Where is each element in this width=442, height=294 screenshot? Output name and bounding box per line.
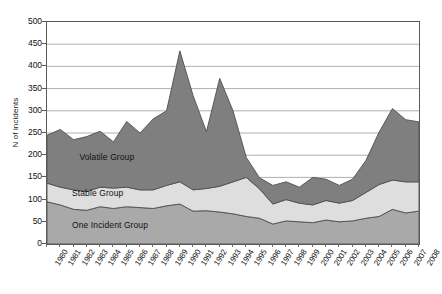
y-tickmark-0 [42, 243, 46, 244]
y-tickmark-100 [42, 199, 46, 200]
x-tick-2004: 2004 [372, 248, 389, 267]
x-tick-1989: 1989 [173, 248, 190, 267]
series-label-0: Volatile Group [79, 152, 134, 162]
x-tick-2005: 2005 [385, 248, 402, 267]
x-tick-2001: 2001 [332, 248, 349, 267]
x-tick-1983: 1983 [93, 248, 110, 267]
x-tick-1997: 1997 [279, 248, 296, 267]
x-tick-2003: 2003 [359, 248, 376, 267]
y-tickmark-200 [42, 154, 46, 155]
x-tick-1994: 1994 [239, 248, 256, 267]
x-tick-1998: 1998 [292, 248, 309, 267]
y-tickmark-300 [42, 110, 46, 111]
y-tick-0: 0 [16, 239, 42, 247]
y-tick-100: 100 [16, 195, 42, 203]
y-tickmark-250 [42, 132, 46, 133]
y-tick-450: 450 [16, 39, 42, 47]
y-tickmark-350 [42, 88, 46, 89]
x-tick-2002: 2002 [345, 248, 362, 267]
y-tick-350: 350 [16, 84, 42, 92]
x-tick-1993: 1993 [226, 248, 243, 267]
x-tick-1982: 1982 [80, 248, 97, 267]
x-tick-1985: 1985 [119, 248, 136, 267]
y-tick-300: 300 [16, 106, 42, 114]
y-tickmark-400 [42, 65, 46, 66]
y-tick-250: 250 [16, 128, 42, 136]
y-tick-200: 200 [16, 150, 42, 158]
y-tick-400: 400 [16, 61, 42, 69]
y-tickmark-450 [42, 43, 46, 44]
x-tick-2006: 2006 [398, 248, 415, 267]
x-tick-2007: 2007 [412, 248, 429, 267]
area-series-2 [47, 51, 419, 205]
x-tick-1980: 1980 [53, 248, 70, 267]
y-tickmark-50 [42, 221, 46, 222]
x-tick-1988: 1988 [159, 248, 176, 267]
y-axis-tick-labels: 050100150200250300350400450500 [14, 0, 42, 294]
y-tick-150: 150 [16, 172, 42, 180]
series-label-2: One Incident Group [72, 220, 148, 230]
x-tick-1999: 1999 [305, 248, 322, 267]
y-tick-50: 50 [16, 217, 42, 225]
x-tick-1990: 1990 [186, 248, 203, 267]
y-tick-500: 500 [16, 17, 42, 25]
stacked-area-svg [47, 22, 419, 244]
x-tick-1987: 1987 [146, 248, 163, 267]
x-tick-1986: 1986 [133, 248, 150, 267]
x-tick-1995: 1995 [252, 248, 269, 267]
series-label-1: Stable Group [72, 188, 123, 198]
x-tick-1991: 1991 [199, 248, 216, 267]
x-tick-2000: 2000 [319, 248, 336, 267]
y-tickmark-150 [42, 176, 46, 177]
x-tick-1992: 1992 [212, 248, 229, 267]
x-tick-1981: 1981 [66, 248, 83, 267]
x-tick-1996: 1996 [266, 248, 283, 267]
plot-area [46, 21, 420, 245]
x-tick-2008: 2008 [425, 248, 442, 267]
y-tickmark-500 [42, 21, 46, 22]
x-tick-1984: 1984 [106, 248, 123, 267]
